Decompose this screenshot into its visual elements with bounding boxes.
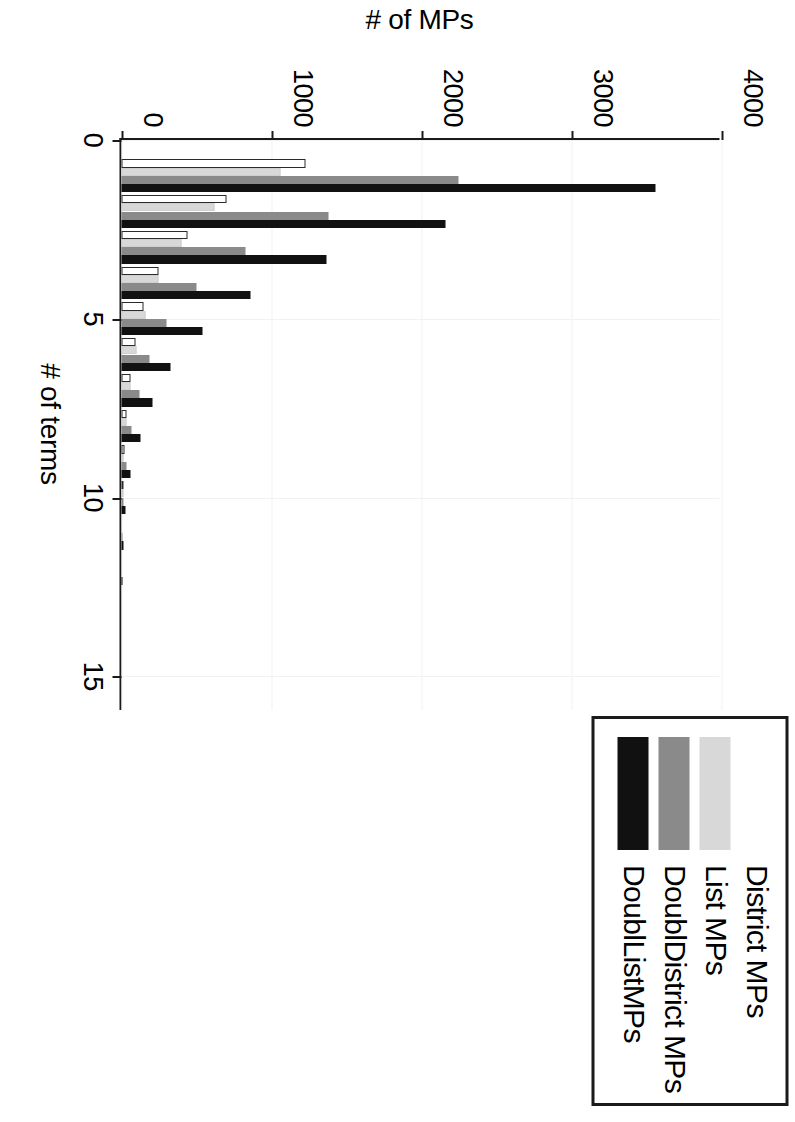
gridline-horizontal: [721, 140, 722, 710]
x-axis-title: # of terms: [33, 138, 65, 710]
y-tick-label: 4000: [737, 69, 768, 127]
y-axis-title: # of MPs: [119, 0, 719, 40]
y-tick-label: 2000: [437, 69, 468, 127]
x-axis-ticks: 051015: [121, 140, 719, 710]
x-tick-mark: [112, 140, 121, 142]
legend-item-label: DoublDistrict MPs: [657, 865, 691, 1093]
y-tick-label: 0: [137, 112, 168, 127]
y-tick-mark: [271, 131, 273, 140]
legend-item: List MPs: [698, 737, 732, 975]
legend-item: District MPs: [739, 737, 773, 1018]
bar-chart-figure: # of MPs 01000200030004000 051015 # of t…: [0, 0, 795, 1122]
legend-swatch-icon: [700, 737, 731, 850]
legend-swatch-icon: [659, 737, 690, 850]
x-tick-label: 15: [76, 662, 107, 691]
x-tick-label: 0: [76, 133, 107, 148]
x-tick-label: 5: [76, 311, 107, 326]
legend-item-label: List MPs: [698, 865, 732, 975]
plot-area: 01000200030004000 051015: [119, 138, 719, 710]
legend-swatch-icon: [618, 737, 649, 850]
y-tick-mark: [721, 131, 723, 140]
legend-item-label: DoublListMPs: [616, 865, 650, 1043]
rotated-figure-wrapper: # of MPs 01000200030004000 051015 # of t…: [0, 0, 795, 1122]
x-tick-mark: [112, 319, 121, 321]
y-tick-mark: [571, 131, 573, 140]
x-tick-mark: [112, 498, 121, 500]
y-tick-label: 1000: [287, 69, 318, 127]
legend-swatch-icon: [741, 737, 772, 850]
y-tick-mark: [121, 131, 123, 140]
x-tick-mark: [112, 676, 121, 678]
y-tick-mark: [421, 131, 423, 140]
x-tick-label: 10: [76, 483, 107, 512]
legend-item: DoublDistrict MPs: [657, 737, 691, 1093]
legend: District MPsList MPsDoublDistrict MPsDou…: [591, 716, 788, 1106]
legend-item-label: District MPs: [739, 865, 773, 1018]
legend-item: DoublListMPs: [616, 737, 650, 1043]
y-tick-label: 3000: [587, 69, 618, 127]
